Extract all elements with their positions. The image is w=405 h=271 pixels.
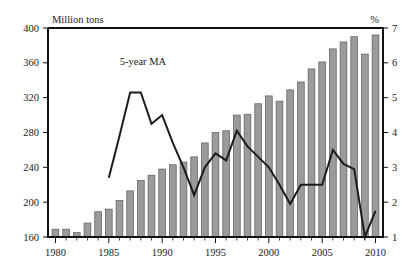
bar-2010 xyxy=(372,35,379,237)
chart-container: 160200240280320360400 1234567 1980198519… xyxy=(0,0,405,271)
right-tick-label-4: 4 xyxy=(392,127,398,138)
left-tick-label-400: 400 xyxy=(23,23,39,34)
bar-1988 xyxy=(137,180,144,237)
left-tick-label-360: 360 xyxy=(23,57,39,68)
right-tick-label-7: 7 xyxy=(392,23,397,34)
left-tick-label-280: 280 xyxy=(23,127,39,138)
bar-2009 xyxy=(361,54,368,237)
bar-1995 xyxy=(212,133,219,238)
bar-2002 xyxy=(287,90,294,237)
bar-2007 xyxy=(340,42,347,237)
left-tick-label-160: 160 xyxy=(23,232,39,243)
bar-2004 xyxy=(308,69,315,237)
bar-1987 xyxy=(127,191,134,237)
right-tick-label-1: 1 xyxy=(392,232,397,243)
x-tick-label-1985: 1985 xyxy=(98,247,119,258)
chart-canvas: 160200240280320360400 1234567 1980198519… xyxy=(0,0,405,271)
bar-1985 xyxy=(105,209,112,237)
bar-1991 xyxy=(169,165,176,237)
x-tick-label-2010: 2010 xyxy=(365,247,386,258)
left-tick-label-240: 240 xyxy=(23,162,39,173)
bar-1984 xyxy=(95,212,102,237)
bar-1989 xyxy=(148,175,155,237)
left-tick-label-320: 320 xyxy=(23,92,39,103)
bar-1998 xyxy=(244,114,251,237)
ma-series-annotation: 5-year MA xyxy=(120,56,167,67)
right-tick-label-2: 2 xyxy=(392,197,397,208)
right-tick-label-6: 6 xyxy=(392,57,397,68)
bar-2003 xyxy=(297,82,304,237)
right-tick-label-3: 3 xyxy=(392,162,397,173)
bar-1990 xyxy=(159,169,166,237)
bar-2006 xyxy=(329,49,336,237)
bar-1986 xyxy=(116,200,123,237)
bar-2005 xyxy=(319,62,326,237)
x-tick-label-1990: 1990 xyxy=(152,247,173,258)
x-tick-label-1995: 1995 xyxy=(205,247,226,258)
right-tick-label-5: 5 xyxy=(392,92,397,103)
x-tick-label-1980: 1980 xyxy=(45,247,66,258)
bar-1994 xyxy=(201,143,208,237)
x-tick-label-2000: 2000 xyxy=(258,247,279,258)
bar-1981 xyxy=(63,229,70,237)
bar-2008 xyxy=(351,37,358,237)
x-tick-label-2005: 2005 xyxy=(312,247,333,258)
bar-2001 xyxy=(276,101,283,237)
bar-1980 xyxy=(52,229,59,237)
right-axis-unit-label: % xyxy=(370,14,379,25)
left-tick-label-200: 200 xyxy=(23,197,39,208)
left-axis-unit-label: Million tons xyxy=(52,14,104,25)
bar-1999 xyxy=(255,104,262,237)
bar-1983 xyxy=(84,223,91,237)
bar-1996 xyxy=(223,131,230,237)
